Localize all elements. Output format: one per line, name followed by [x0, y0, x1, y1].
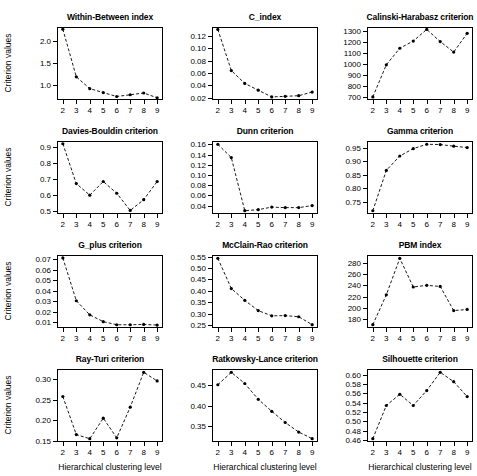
data-point — [466, 395, 469, 398]
data-point — [452, 380, 455, 383]
data-point — [412, 404, 415, 407]
data-point — [398, 393, 401, 396]
panel-12: Silhouette criterion0.460.480.500.520.54… — [0, 0, 477, 476]
data-point — [439, 371, 442, 374]
data-point — [371, 437, 374, 440]
x-axis-title: Hierarchical clustering level — [368, 462, 471, 472]
series-line — [0, 0, 477, 476]
data-point — [425, 389, 428, 392]
data-point — [385, 404, 388, 407]
multi-panel-criteria-figure: Within-Between index1.01.52.023456789Cri… — [0, 0, 477, 476]
